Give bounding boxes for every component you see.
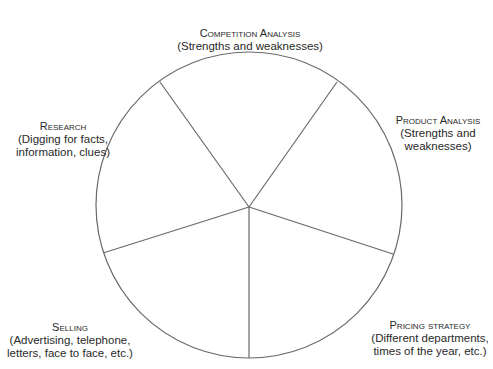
segment-description: (Advertising, telephone, bbox=[0, 334, 140, 347]
label-pricing-strategy: Pricing strategy (Different departments,… bbox=[360, 319, 493, 358]
segment-title: Competition Analysis bbox=[150, 27, 350, 40]
segment-title: Selling bbox=[0, 321, 140, 334]
label-product-analysis: Product Analysis (Strengths and weakness… bbox=[388, 114, 488, 153]
segment-description: weaknesses) bbox=[388, 140, 488, 153]
segment-description: (Strengths and bbox=[388, 127, 488, 140]
spoke-upper-right bbox=[249, 82, 337, 207]
segment-description: information, clues) bbox=[8, 146, 118, 159]
segment-description: (Strengths and weaknesses) bbox=[150, 40, 350, 53]
segment-title: Research bbox=[8, 120, 118, 133]
spoke-upper-left bbox=[160, 82, 249, 207]
segment-description: times of the year, etc.) bbox=[360, 345, 493, 358]
spoke-right bbox=[249, 207, 393, 254]
label-selling: Selling (Advertising, telephone, letters… bbox=[0, 321, 140, 360]
segment-title: Product Analysis bbox=[388, 114, 488, 127]
segment-description: (Different departments, bbox=[360, 332, 493, 345]
segment-description: (Digging for facts, bbox=[8, 133, 118, 146]
spoke-left bbox=[103, 207, 249, 253]
label-competition-analysis: Competition Analysis (Strengths and weak… bbox=[150, 27, 350, 53]
segment-title: Pricing strategy bbox=[360, 319, 493, 332]
label-research: Research (Digging for facts, information… bbox=[8, 120, 118, 159]
segment-description: letters, face to face, etc.) bbox=[0, 347, 140, 360]
